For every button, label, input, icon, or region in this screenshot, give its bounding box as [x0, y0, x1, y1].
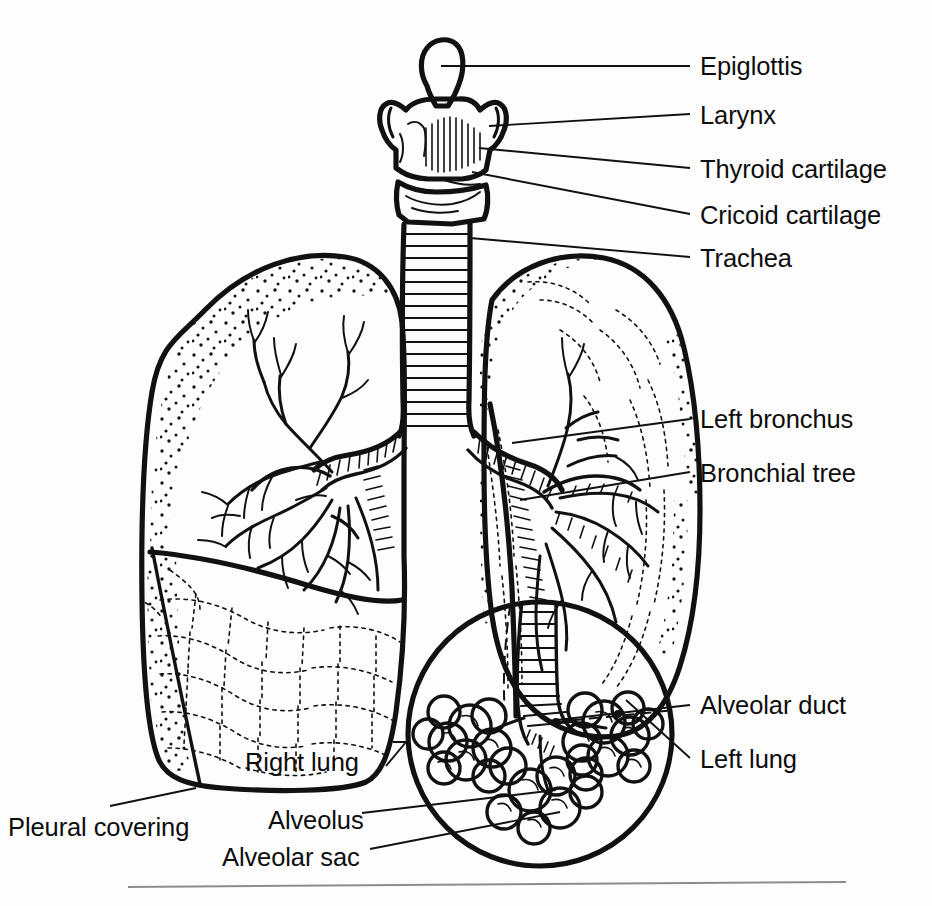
label-pleural-covering: Pleural covering	[8, 813, 189, 841]
respiratory-system-figure: Epiglottis Larynx Thyroid cartilage Cric…	[0, 0, 932, 906]
label-trachea: Trachea	[700, 244, 793, 272]
label-left-bronchus: Left bronchus	[700, 405, 853, 433]
label-epiglottis: Epiglottis	[700, 52, 802, 80]
label-right-lung: Right lung	[245, 748, 359, 776]
label-cricoid-cartilage: Cricoid cartilage	[700, 201, 881, 229]
diagram-canvas: Epiglottis Larynx Thyroid cartilage Cric…	[0, 0, 932, 906]
label-alveolar-sac: Alveolar sac	[222, 843, 360, 871]
label-alveolus: Alveolus	[268, 806, 364, 834]
label-bronchial-tree: Bronchial tree	[700, 459, 856, 487]
label-thyroid-cartilage: Thyroid cartilage	[700, 155, 887, 183]
label-alveolar-duct: Alveolar duct	[700, 691, 846, 719]
label-larynx: Larynx	[700, 101, 776, 129]
label-left-lung: Left lung	[700, 745, 797, 773]
